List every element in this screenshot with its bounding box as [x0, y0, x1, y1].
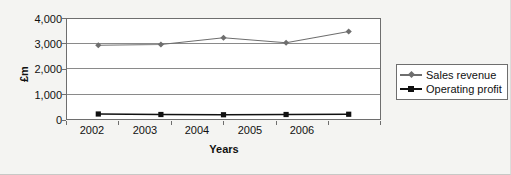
data-point-marker	[220, 35, 226, 41]
x-tick-label-2006: 2006	[277, 124, 327, 136]
legend-label: Operating profit	[426, 83, 502, 95]
legend-label: Sales revenue	[426, 69, 496, 81]
data-point-marker	[284, 112, 289, 117]
legend-marker-diamond-icon	[400, 69, 422, 81]
x-tick-label-2002: 2002	[67, 124, 117, 136]
x-tick-mark	[118, 121, 119, 125]
data-point-marker	[158, 112, 163, 117]
y-tick-label: 2,000	[20, 64, 62, 74]
y-tick-label: 1,000	[20, 90, 62, 100]
data-point-marker	[158, 41, 164, 47]
legend-item-sales-revenue: Sales revenue	[400, 68, 502, 82]
legend-marker-square-icon	[400, 83, 422, 95]
data-point-marker	[346, 112, 351, 117]
y-tick-label: 4,000	[20, 14, 62, 24]
x-tick-mark	[380, 121, 381, 125]
x-tick-mark	[223, 121, 224, 125]
data-point-marker	[283, 40, 289, 46]
legend-item-operating-profit: Operating profit	[400, 82, 502, 96]
x-tick-label-2004: 2004	[172, 124, 222, 136]
plot-area	[66, 18, 381, 120]
y-tick-label: 3,000	[20, 39, 62, 49]
y-axis-ticks: 4,000 3,000 2,000 1,000 0	[14, 0, 62, 175]
x-axis-label: Years	[156, 143, 292, 155]
x-tick-label-2005: 2005	[225, 124, 275, 136]
chart-figure: £m 4,000 3,000 2,000 1,000 0 2002 2003 2…	[0, 0, 511, 175]
x-tick-label-2003: 2003	[120, 124, 170, 136]
data-point-marker	[96, 111, 101, 116]
data-point-marker	[95, 42, 101, 48]
data-point-marker	[346, 28, 352, 34]
y-tick-label: 0	[20, 115, 62, 125]
chart-legend: Sales revenue Operating profit	[396, 64, 508, 100]
chart-lines	[67, 19, 380, 119]
x-tick-mark	[328, 121, 329, 125]
data-point-marker	[221, 112, 226, 117]
